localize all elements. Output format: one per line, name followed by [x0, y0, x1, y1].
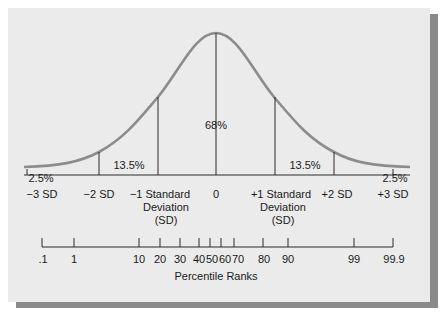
- sd-label-plus1-line1: +1 Standard: [251, 188, 311, 200]
- normal-distribution-figure: 68% 13.5% 13.5% 2.5% 2.5% −3 SD −2 SD −1…: [0, 0, 446, 316]
- sd-label-plus2: +2 SD: [322, 188, 353, 200]
- area-label-left-mid: 13.5%: [113, 159, 144, 171]
- sd-label-minus1-line1: −1 Standard: [130, 188, 190, 200]
- percentile-ticks: [42, 238, 393, 247]
- area-label-right-mid: 13.5%: [289, 159, 320, 171]
- sd-label-minus1-line3: (SD): [155, 214, 178, 226]
- sd-label-minus3: −3 SD: [27, 188, 58, 200]
- bell-curve: [24, 33, 410, 167]
- tick-label-99-9: 99.9: [383, 253, 404, 265]
- tick-label-0-1: .1: [38, 253, 47, 265]
- sd-label-plus1-line2: Deviation: [260, 201, 306, 213]
- bell-curve-diagram: 68% 13.5% 13.5% 2.5% 2.5% −3 SD −2 SD −1…: [0, 0, 446, 316]
- area-label-center: 68%: [205, 119, 227, 131]
- percentile-axis-title: Percentile Ranks: [174, 270, 258, 282]
- sd-label-zero: 0: [213, 188, 219, 200]
- tick-label-10: 10: [133, 253, 145, 265]
- tick-label-40: 40: [193, 253, 205, 265]
- sd-label-minus2: −2 SD: [84, 188, 115, 200]
- tick-label-1: 1: [71, 253, 77, 265]
- sd-label-plus1-line3: (SD): [272, 214, 295, 226]
- tick-label-70: 70: [232, 253, 244, 265]
- tick-label-30: 30: [174, 253, 186, 265]
- percentile-tick-labels: .1 1 10 20 30 40 50 60 70 80 90 99 99.9: [38, 253, 404, 265]
- tick-label-90: 90: [282, 253, 294, 265]
- area-label-right-tail: 2.5%: [382, 172, 407, 184]
- sd-label-minus1-line2: Deviation: [143, 201, 189, 213]
- tick-label-80: 80: [258, 253, 270, 265]
- tick-label-50: 50: [206, 253, 218, 265]
- tick-label-20: 20: [154, 253, 166, 265]
- area-label-left-tail: 2.5%: [28, 172, 53, 184]
- tick-label-99: 99: [348, 253, 360, 265]
- sd-label-plus3: +3 SD: [378, 188, 409, 200]
- tick-label-60: 60: [219, 253, 231, 265]
